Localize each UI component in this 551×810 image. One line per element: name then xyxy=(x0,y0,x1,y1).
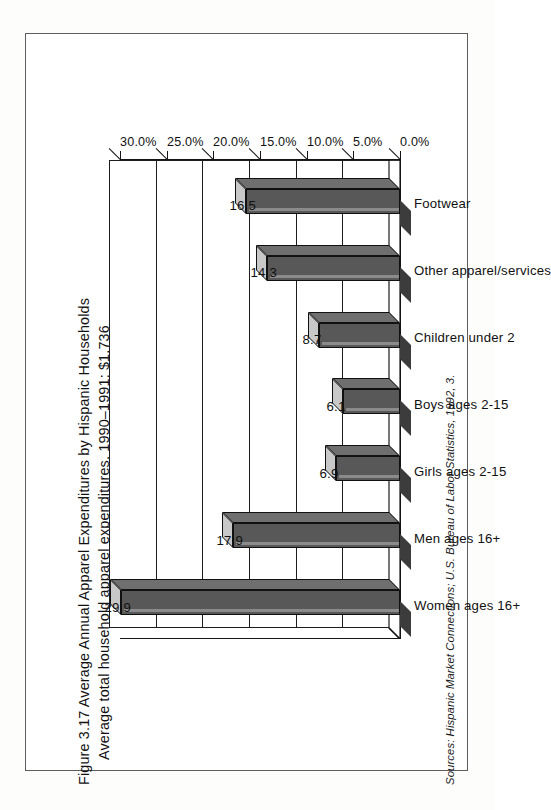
category-label: Girls ages 2-15 xyxy=(414,464,506,479)
source-note: Sources: Hispanic Market Connections; U.… xyxy=(444,95,456,785)
y-axis-depth-edge xyxy=(109,148,121,160)
bar-value-label: 14.3 xyxy=(250,265,276,280)
bar-value-label: 29.9 xyxy=(104,599,130,614)
bar-base-shadow xyxy=(400,200,411,236)
bar-side-face xyxy=(308,312,400,323)
y-axis-tick-label: 15.0% xyxy=(260,135,297,149)
category-label: Children under 2 xyxy=(414,330,515,345)
bar[interactable] xyxy=(267,256,400,281)
category-label: Women ages 16+ xyxy=(414,598,520,613)
gridline xyxy=(202,160,203,628)
bar-front-face xyxy=(267,256,400,281)
y-axis-tick-label: 10.0% xyxy=(307,135,344,149)
bar-value-label: 6.9 xyxy=(319,465,338,480)
y-axis-tick-label: 20.0% xyxy=(213,135,250,149)
bar-front-face xyxy=(121,590,400,615)
bar-value-label: 17.9 xyxy=(216,532,242,547)
bar[interactable] xyxy=(343,390,400,415)
bar[interactable] xyxy=(246,189,400,214)
bar-side-face xyxy=(222,512,400,523)
bar-value-label: 16.5 xyxy=(230,198,256,213)
bar-front-face xyxy=(246,189,400,214)
bar-side-face xyxy=(110,579,400,590)
gridline xyxy=(156,160,157,628)
bar-side-face xyxy=(235,178,400,189)
figure-container: Figure 3.17 Average Annual Apparel Expen… xyxy=(58,89,488,789)
bar-front-face xyxy=(336,456,400,481)
bar-value-label: 8.7 xyxy=(302,332,321,347)
bar-value-label: 6.1 xyxy=(327,399,346,414)
bar-base-shadow xyxy=(400,267,411,303)
bar-front-face xyxy=(233,523,400,548)
page-border-frame: Figure 3.17 Average Annual Apparel Expen… xyxy=(25,33,468,771)
gridline xyxy=(109,160,110,628)
category-label: Footwear xyxy=(414,196,471,211)
bar[interactable] xyxy=(233,523,400,548)
bar-side-face xyxy=(325,445,400,456)
bar[interactable] xyxy=(319,323,400,348)
y-axis-tick-label: 0.0% xyxy=(400,135,430,149)
bar-base-shadow xyxy=(400,534,411,570)
figure-title-line-1: Figure 3.17 Average Annual Apparel Expen… xyxy=(74,315,94,785)
bar-base-shadow xyxy=(400,334,411,370)
bar[interactable] xyxy=(121,590,400,615)
category-label: Boys ages 2-15 xyxy=(414,397,508,412)
bar-base-shadow xyxy=(400,601,411,637)
bar[interactable] xyxy=(336,456,400,481)
bar-base-shadow xyxy=(400,401,411,437)
y-axis-left-line xyxy=(120,638,400,639)
bar-side-face xyxy=(256,245,400,256)
bar-front-face xyxy=(319,323,400,348)
category-label: Men ages 16+ xyxy=(414,531,500,546)
bar-front-face xyxy=(343,390,400,415)
y-axis-tick-label: 5.0% xyxy=(353,135,383,149)
plot-area: 0.0%5.0%10.0%15.0%20.0%25.0%30.0% 29.917… xyxy=(120,171,400,639)
y-axis-tick-label: 30.0% xyxy=(120,135,157,149)
category-label: Other apparel/services xyxy=(414,263,551,278)
gridline xyxy=(296,160,297,628)
gridline xyxy=(249,160,250,628)
y-axis-tick-label: 25.0% xyxy=(167,135,204,149)
bar-base-shadow xyxy=(400,467,411,503)
